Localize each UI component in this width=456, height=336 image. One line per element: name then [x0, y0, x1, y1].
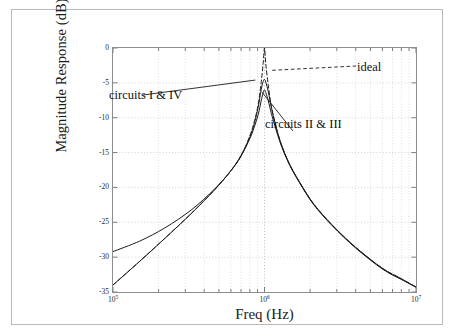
- y-tick-label: -30: [99, 252, 109, 261]
- x-minor-gridlines: [159, 48, 409, 292]
- y-tick-label: -10: [99, 113, 109, 122]
- x-tick-label: 105: [108, 295, 118, 304]
- x-tick-label: 106: [259, 295, 269, 304]
- y-tick-label: -20: [99, 182, 109, 191]
- plot-area: [112, 47, 417, 293]
- y-tick-label: -15: [99, 148, 109, 157]
- figure-screenshot: Magnitude Response (dB) 0-5-10-15-20-25-…: [0, 0, 456, 336]
- annotation-circuits-ii-iii: circuits II & III: [265, 117, 342, 132]
- annotation-ideal: ideal: [357, 60, 381, 75]
- series-line: [113, 48, 416, 287]
- page-frame: Magnitude Response (dB) 0-5-10-15-20-25-…: [11, 9, 443, 325]
- y-tick-label: -25: [99, 217, 109, 226]
- x-tick-label: 107: [411, 295, 421, 304]
- y-tick-label: -5: [103, 78, 109, 87]
- annotation-circuits-i-iv: circuits I & IV: [109, 88, 182, 103]
- y-axis-tick-labels: 0-5-10-15-20-25-30-35: [88, 47, 109, 293]
- chart-canvas: [113, 48, 416, 292]
- data-series-group: [113, 48, 416, 287]
- y-tick-label: 0: [105, 43, 109, 52]
- x-axis-label: Freq (Hz): [112, 306, 417, 323]
- leader-line: [272, 66, 356, 70]
- y-axis-label: Magnitude Response (dB): [53, 0, 70, 194]
